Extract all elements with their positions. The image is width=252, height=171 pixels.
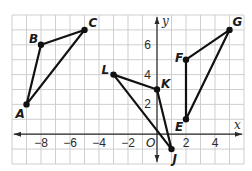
point-label-a: A xyxy=(15,107,25,121)
y-tick-label: 6 xyxy=(144,38,151,52)
y-tick-label: 4 xyxy=(144,68,151,82)
x-axis-right-arrow-icon xyxy=(235,132,242,137)
x-tick-label: 2 xyxy=(183,136,190,150)
point-label-j: J xyxy=(171,152,178,166)
point-label-f: F xyxy=(175,51,184,65)
y-axis-label: y xyxy=(161,14,169,28)
point-label-k: K xyxy=(161,77,172,91)
y-axis-up-arrow-icon xyxy=(155,17,160,24)
point-b xyxy=(38,42,44,48)
x-axis-label: x xyxy=(234,118,241,132)
x-tick-label: −8 xyxy=(34,136,48,150)
y-tick-label: 2 xyxy=(144,97,151,111)
origin-label: O xyxy=(146,136,155,150)
x-tick-label: 4 xyxy=(212,136,219,150)
point-f xyxy=(183,57,189,63)
x-tick-label: −2 xyxy=(121,136,135,150)
y-axis-down-arrow-icon xyxy=(155,155,160,162)
x-axis-left-arrow-icon xyxy=(14,132,21,137)
point-label-b: B xyxy=(29,32,38,46)
point-l xyxy=(110,71,116,77)
point-label-l: L xyxy=(102,63,110,77)
point-c xyxy=(81,27,87,33)
x-tick-label: −4 xyxy=(92,136,106,150)
x-tick-label: −6 xyxy=(63,136,77,150)
tick-labels: −8−6−4−224246 xyxy=(34,38,219,150)
point-label-e: E xyxy=(175,120,184,134)
coordinate-plane: xyO −8−6−4−224246 ABCLKJFEG xyxy=(0,0,252,171)
point-label-g: G xyxy=(233,15,243,29)
point-label-c: C xyxy=(89,16,98,30)
point-k xyxy=(154,86,160,92)
point-e xyxy=(183,116,189,122)
